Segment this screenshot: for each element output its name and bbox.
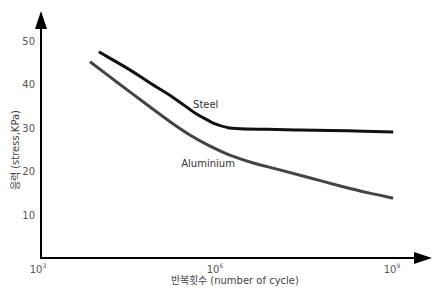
y-tick-label-20: 20 — [22, 166, 35, 177]
y-tick-label-10: 10 — [22, 210, 35, 221]
series-label-aluminium: Aluminium — [181, 158, 235, 169]
stress-cycle-chart: 1020304050 103106109 SteelAluminium 반복횟수… — [0, 0, 441, 302]
series-line-steel — [99, 52, 393, 132]
y-axis-title: 응력 (stress,KPa) — [10, 110, 21, 190]
y-tick-label-30: 30 — [22, 123, 35, 134]
x-axis-title: 반복횟수 (number of cycle) — [171, 275, 299, 286]
series-label-steel: Steel — [193, 99, 218, 110]
series-layer — [90, 52, 393, 198]
x-tick-label-10e3: 103 — [30, 262, 47, 275]
x-axis-arrow — [414, 252, 432, 264]
x-tick-label-10e9: 109 — [384, 262, 401, 275]
y-axis-arrow — [35, 11, 47, 29]
y-tick-label-50: 50 — [22, 36, 35, 47]
y-tick-label-40: 40 — [22, 79, 35, 90]
y-tick-labels: 1020304050 — [22, 36, 35, 221]
x-tick-label-10e6: 106 — [207, 262, 224, 275]
x-tick-labels: 103106109 — [30, 262, 401, 275]
